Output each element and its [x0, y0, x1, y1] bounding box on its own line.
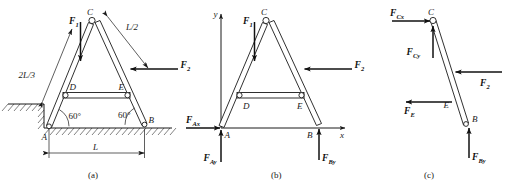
panel-caption-c: (c) [424, 170, 434, 180]
joint-label-C-c: C [428, 7, 435, 17]
force-sub-FCy-c: Cy [413, 52, 420, 59]
joint-label-D-a: D [69, 82, 77, 92]
panel-b: y x [185, 7, 365, 180]
joint-label-E-c: E [443, 100, 450, 110]
member-AC-b [219, 23, 268, 128]
force-sub-F1-b: 1 [250, 21, 253, 28]
angle-label-A-a: 60° [69, 111, 82, 121]
force-sub-FE-c: E [410, 111, 416, 118]
joint-label-A-b: A [224, 130, 231, 140]
joint-label-B-c: B [472, 114, 478, 124]
pin-C-b [263, 17, 269, 23]
member-CB-b [269, 21, 322, 126]
joint-label-C-b: C [261, 7, 268, 17]
dimension-label-2L3-a: 2L/3 [19, 70, 36, 80]
axis-label-x-b: x [339, 130, 344, 140]
pin-D-a [63, 93, 68, 98]
panel-caption-b: (b) [271, 170, 282, 180]
pin-D-b [237, 93, 242, 98]
pin-C-c [430, 17, 436, 23]
joint-label-B-a: B [149, 115, 155, 125]
force-sub-FCx-c: Cx [397, 13, 405, 20]
joint-label-C-a: C [87, 7, 94, 17]
pin-A-a [47, 124, 52, 129]
figure-canvas: C A B D E F 1 F 2 2L/3 L/2 L 60° 60° (a)… [0, 0, 510, 186]
joint-label-B-b: B [307, 130, 313, 140]
force-sub-F2-a: 2 [186, 65, 191, 72]
pin-E-b [299, 93, 304, 98]
force-sub-FAy-b: Ay [209, 158, 217, 165]
member-DE-a [63, 93, 130, 99]
angle-label-B-a: 60° [118, 110, 131, 120]
force-sub-FAx-b: Ax [192, 120, 201, 127]
panel-a: C A B D E F 1 F 2 2L/3 L/2 L 60° 60° (a) [2, 7, 191, 180]
member-DE-b [237, 93, 304, 99]
force-sub-F1-a: 1 [76, 21, 79, 28]
force-sub-F2-b: 2 [360, 65, 365, 72]
force-sub-F2-c: 2 [486, 83, 491, 90]
pin-B-a [142, 122, 147, 127]
dimension-2L3-leader-a [43, 29, 73, 102]
joint-label-A-a: A [41, 132, 48, 142]
panel-caption-a: (a) [88, 170, 98, 180]
statics-figure: C A B D E F 1 F 2 2L/3 L/2 L 60° 60° (a)… [0, 0, 510, 186]
panel-c: C B E F Cx F Cy F 2 F E F By (c) [389, 7, 502, 180]
pin-C-a [89, 17, 95, 23]
dimension-label-L-a: L [92, 142, 98, 152]
force-sub-FBy-b: By [328, 158, 336, 165]
force-sub-FBy-c: By [478, 157, 486, 164]
axis-label-y-b: y [213, 9, 218, 19]
joint-label-E-b: E [296, 101, 303, 111]
pin-B-c [464, 122, 469, 127]
dimension-label-L2-a: L/2 [125, 22, 139, 32]
joint-label-E-a: E [118, 82, 125, 92]
pin-E-a [125, 93, 130, 98]
joint-label-D-b: D [242, 101, 250, 111]
